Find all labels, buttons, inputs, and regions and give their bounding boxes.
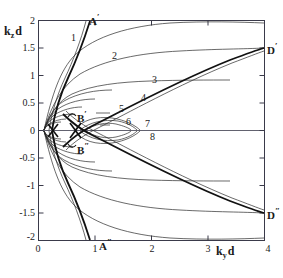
curve-label-6: 6 xyxy=(126,117,131,127)
x-tick-label-3: 3 xyxy=(206,244,211,254)
x-tick-label-2: 2 xyxy=(150,244,155,254)
curve-label-8: 8 xyxy=(150,132,155,142)
y-tick-label-2: 2 xyxy=(30,16,35,26)
x-tick-label-4: 4 xyxy=(266,244,271,254)
y-tick-label-1: 1 xyxy=(30,71,35,81)
y-tick-label-0: 0 xyxy=(30,126,35,136)
y-tick-label-0_5: 0.5 xyxy=(23,98,36,108)
y-tick-label-neg0_5: -0.5 xyxy=(19,153,35,163)
curve-label-2: 2 xyxy=(112,51,117,61)
y-tick-label-1_5: 1.5 xyxy=(23,43,36,53)
curve-label-7: 7 xyxy=(145,119,150,129)
curve-label-3: 3 xyxy=(152,75,157,85)
plot-canvas xyxy=(0,0,283,278)
x-tick-label-0: 0 xyxy=(36,244,41,254)
branch-label-a-double-prime: A″ xyxy=(99,238,112,252)
branch-label-d-prime: D′ xyxy=(267,42,277,56)
dispersion-plot-figure: kz d ky d 2 1.5 1 0.5 0 -0.5 -1 -1.5 -2 … xyxy=(0,0,283,278)
y-tick-label-neg1_5: -1.5 xyxy=(19,208,35,218)
y-axis-title: kz d xyxy=(4,25,22,40)
x-axis-title: ky d xyxy=(216,245,234,260)
branch-label-b-prime: B′ xyxy=(77,110,87,124)
x-tick-label-1: 1 xyxy=(93,244,98,254)
curve-label-1: 1 xyxy=(71,33,76,43)
curve-label-5: 5 xyxy=(119,104,124,114)
curve-label-4: 4 xyxy=(141,93,146,103)
branch-label-a-prime: A′ xyxy=(89,13,99,27)
branch-label-d-double-prime: D″ xyxy=(267,207,280,221)
y-tick-label-neg1: -1 xyxy=(27,181,35,191)
branch-label-b-double-prime: B″ xyxy=(77,142,89,156)
y-tick-label-neg2: -2 xyxy=(27,232,35,242)
